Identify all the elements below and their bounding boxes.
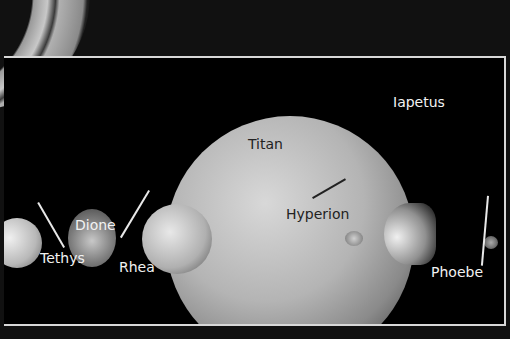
- tethys-moon: [4, 218, 42, 268]
- phoebe-moon: [484, 236, 498, 249]
- moons-panel: Tethys Dione Rhea Titan Hyperion Iapetus…: [4, 56, 506, 326]
- titan-label: Titan: [248, 136, 283, 152]
- dione-label: Dione: [75, 217, 116, 233]
- hyperion-moon: [345, 231, 363, 246]
- hyperion-label: Hyperion: [286, 206, 349, 222]
- phoebe-leader-line: [481, 196, 489, 266]
- tethys-label: Tethys: [40, 250, 85, 266]
- rhea-label: Rhea: [119, 259, 155, 275]
- iapetus-moon: [384, 203, 436, 265]
- iapetus-label: Iapetus: [393, 94, 445, 110]
- phoebe-label: Phoebe: [431, 264, 483, 280]
